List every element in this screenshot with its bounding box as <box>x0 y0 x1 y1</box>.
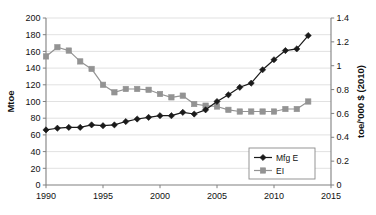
y2-tick-label: 0.8 <box>337 85 350 95</box>
y-axis-right-title: toe/'000 $ (2010) <box>355 65 366 138</box>
y2-tick-label: 1.2 <box>337 37 350 47</box>
chart-container: 199019952000200520102015 020406080100120… <box>0 0 376 215</box>
y2-tick-label: 0.2 <box>337 156 350 166</box>
y-tick-label: 20 <box>30 164 40 174</box>
marker-square <box>237 109 242 114</box>
marker-square <box>192 101 197 106</box>
marker-square <box>78 59 83 64</box>
marker-square <box>271 109 276 114</box>
y-tick-label: 0 <box>35 180 40 190</box>
marker-square <box>112 90 117 95</box>
legend-marker-square-icon <box>260 168 265 173</box>
marker-square <box>100 82 105 87</box>
marker-square <box>89 66 94 71</box>
legend-label: Mfg E <box>276 153 299 163</box>
marker-square <box>180 93 185 98</box>
marker-square <box>294 106 299 111</box>
marker-square <box>135 86 140 91</box>
marker-square <box>157 91 162 96</box>
marker-square <box>43 54 48 59</box>
line-chart: 199019952000200520102015 020406080100120… <box>0 0 376 215</box>
marker-square <box>249 109 254 114</box>
y-tick-label: 160 <box>25 47 40 57</box>
x-tick-label: 2015 <box>321 191 341 201</box>
marker-square <box>169 95 174 100</box>
y2-tick-label: 0.4 <box>337 132 350 142</box>
y2-tick-label: 1.4 <box>337 13 350 23</box>
marker-square <box>55 45 60 50</box>
marker-square <box>226 107 231 112</box>
x-tick-label: 1990 <box>36 191 56 201</box>
y-tick-label: 40 <box>30 147 40 157</box>
legend-label: EI <box>276 166 284 176</box>
y2-tick-label: 0.6 <box>337 109 350 119</box>
y-tick-label: 140 <box>25 63 40 73</box>
marker-square <box>123 86 128 91</box>
y2-tick-label: 1 <box>337 61 342 71</box>
y-tick-label: 200 <box>25 13 40 23</box>
marker-square <box>260 109 265 114</box>
y-tick-label: 180 <box>25 30 40 40</box>
x-tick-label: 2010 <box>264 191 284 201</box>
x-tick-label: 2005 <box>207 191 227 201</box>
y2-tick-label: 0 <box>337 180 342 190</box>
marker-square <box>66 48 71 53</box>
marker-square <box>146 87 151 92</box>
x-tick-label: 2000 <box>150 191 170 201</box>
marker-square <box>283 106 288 111</box>
x-tick-label: 1995 <box>93 191 113 201</box>
chart-background <box>0 0 376 215</box>
y-tick-label: 60 <box>30 130 40 140</box>
chart-legend[interactable]: Mfg EEI <box>249 148 315 179</box>
y-tick-label: 100 <box>25 97 40 107</box>
y-axis-left-title: Mtoe <box>5 90 16 112</box>
marker-square <box>306 99 311 104</box>
y-tick-label: 80 <box>30 113 40 123</box>
y-tick-label: 120 <box>25 80 40 90</box>
